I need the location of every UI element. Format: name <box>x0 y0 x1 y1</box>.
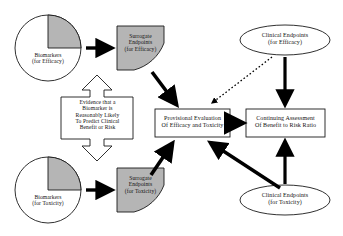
node-biomarkers-toxicity <box>15 157 81 223</box>
diagram-svg <box>0 0 343 236</box>
edge-surrogate-efficacy-to-provisional <box>152 72 176 104</box>
node-clinical-endpoints-efficacy <box>240 25 330 55</box>
edge-clinical-endpoints-efficacy-to-provisional <box>212 57 272 103</box>
node-surrogate-endpoints-efficacy <box>117 26 164 70</box>
edge-clinical-endpoints-toxicity-to-provisional <box>211 143 280 188</box>
diagram-canvas: Biomarkers (for Efficacy) Surrogate Endp… <box>0 0 343 236</box>
node-biomarkers-efficacy <box>15 15 81 81</box>
node-surrogate-endpoints-toxicity <box>117 168 164 212</box>
node-continuing-assessment <box>246 109 325 137</box>
node-provisional-evaluation <box>155 109 230 137</box>
node-clinical-endpoints-toxicity <box>240 185 330 215</box>
node-evidence-block <box>61 75 138 161</box>
